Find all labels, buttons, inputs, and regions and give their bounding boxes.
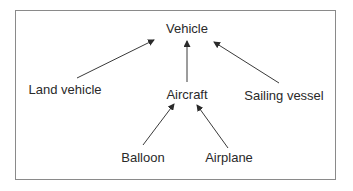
node-sailing-vessel: Sailing vessel xyxy=(244,89,324,102)
node-land-vehicle: Land vehicle xyxy=(29,83,102,96)
edge-sailing-vessel-to-vehicle xyxy=(214,42,279,83)
node-airplane: Airplane xyxy=(205,151,253,164)
edge-land-vehicle-to-vehicle xyxy=(77,40,154,78)
edge-balloon-to-aircraft xyxy=(143,104,174,145)
node-vehicle: Vehicle xyxy=(166,22,208,35)
node-balloon: Balloon xyxy=(121,151,164,164)
node-aircraft: Aircraft xyxy=(166,88,207,101)
edge-airplane-to-aircraft xyxy=(197,105,228,148)
